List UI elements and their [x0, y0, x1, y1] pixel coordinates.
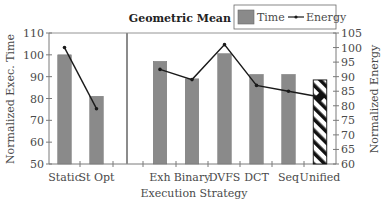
y2-tick-label: 60 [341, 158, 355, 171]
legend-energy-label: Energy [306, 11, 347, 24]
legend: Time Energy [234, 5, 347, 29]
category-label: Unified [300, 171, 341, 184]
y2-tick-label: 65 [341, 143, 355, 156]
y2-tick-label: 85 [341, 85, 355, 98]
bar-st-opt [90, 96, 104, 164]
category-label: Exh [149, 171, 170, 184]
energy-marker [190, 78, 194, 82]
y2-tick-label: 100 [341, 42, 362, 55]
y2-tick-label: 75 [341, 114, 355, 127]
bar-dct [250, 74, 264, 164]
energy-marker [255, 84, 259, 88]
category-label: Seq [278, 171, 299, 184]
y-tick-label: 60 [30, 136, 44, 149]
chart-title: Geometric Mean [129, 12, 231, 25]
bar-binary [185, 79, 199, 164]
legend-time-label: Time [257, 11, 285, 24]
chart-container: Geometric Mean Time Energy 5060708090100… [0, 0, 389, 205]
y-axis-title: Normalized Exec. Time [4, 34, 17, 164]
energy-marker [223, 43, 227, 47]
chart-svg: Geometric Mean Time Energy 5060708090100… [0, 0, 389, 205]
legend-energy-marker [294, 15, 297, 18]
y2-tick-label: 95 [341, 56, 355, 69]
energy-polyline [160, 45, 320, 97]
x-axis-title: Execution Strategy [140, 187, 248, 200]
category-label: St Opt [79, 171, 116, 184]
category-label: DVFS [209, 171, 241, 184]
energy-marker [158, 68, 162, 72]
y2-tick-label: 80 [341, 100, 355, 113]
y-tick-label: 70 [30, 114, 44, 127]
energy-marker [95, 107, 99, 111]
y-tick-label: 100 [23, 49, 44, 62]
bar-seq [282, 74, 296, 164]
bar-dvfs [218, 54, 232, 164]
bar-exh [153, 61, 167, 164]
y2-tick-label: 105 [341, 27, 362, 40]
y2-tick-label: 70 [341, 129, 355, 142]
y-tick-label: 80 [30, 93, 44, 106]
category-label: DCT [244, 171, 269, 184]
y-tick-label: 90 [30, 71, 44, 84]
energy-marker [287, 89, 291, 93]
y-tick-label: 50 [30, 158, 44, 171]
y2-tick-label: 90 [341, 71, 355, 84]
category-label: Binary [174, 171, 212, 184]
energy-marker [63, 46, 67, 50]
legend-time-swatch [238, 10, 254, 24]
category-label: Static [48, 171, 81, 184]
bar-static [58, 55, 72, 164]
y-tick-label: 110 [23, 27, 44, 40]
y2-axis-title: Normalized Energy [368, 44, 381, 153]
category-labels: StaticSt OptExhBinaryDVFSDCTSeqUnified [48, 171, 340, 184]
